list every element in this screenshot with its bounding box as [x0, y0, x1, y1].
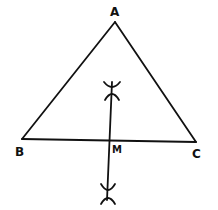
label-a: A — [110, 6, 119, 18]
triangle-diagram — [0, 0, 218, 210]
label-c: C — [192, 148, 201, 160]
label-m: M — [112, 145, 122, 155]
label-b: B — [15, 146, 24, 158]
side-ab — [22, 22, 115, 139]
side-ac — [115, 22, 196, 142]
